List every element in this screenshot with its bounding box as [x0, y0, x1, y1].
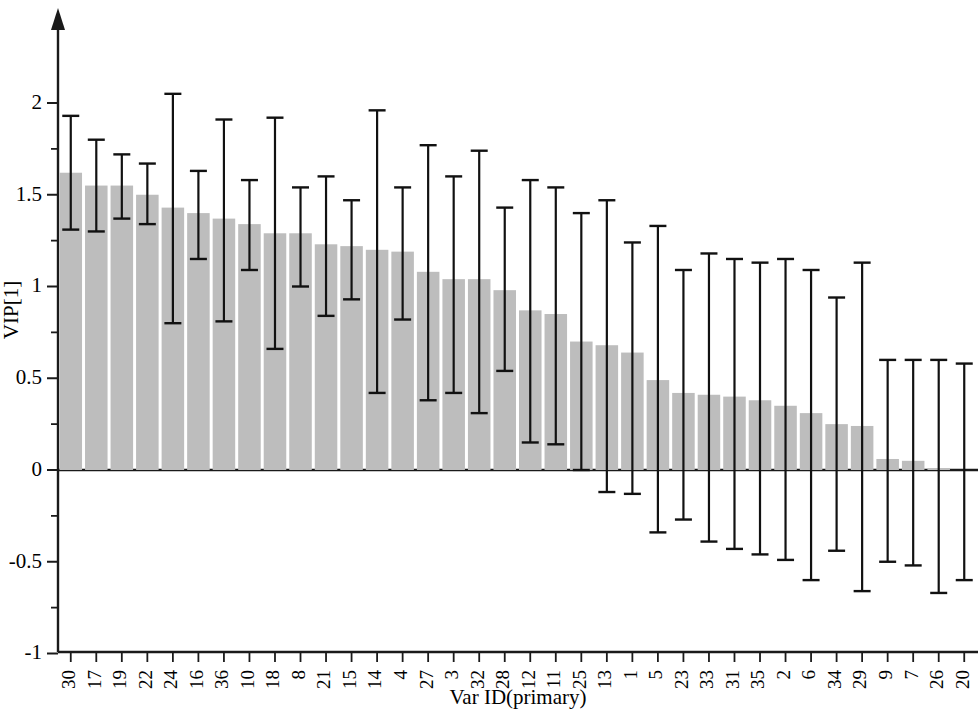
vip-plot-root: -1-0.500.511.52 301719222416361018821151… — [0, 0, 978, 715]
y-tick-label-1: 1 — [32, 273, 43, 297]
x-tick-label-31: 31 — [722, 670, 743, 689]
x-tick-label-4: 4 — [390, 670, 411, 680]
x-tick-label-34: 34 — [824, 670, 845, 690]
x-tick-label-9: 9 — [875, 670, 896, 680]
x-tick-label-6: 6 — [798, 670, 819, 680]
x-tick-label-26: 26 — [926, 670, 947, 689]
bar — [111, 186, 134, 470]
x-axis-title: Var ID(primary) — [449, 685, 586, 709]
x-tick-label-20: 20 — [952, 670, 973, 689]
vip-bar-chart: -1-0.500.511.52 301719222416361018821151… — [0, 0, 978, 715]
x-tick-label-23: 23 — [671, 670, 692, 689]
bar — [136, 195, 159, 470]
x-tick-label-35: 35 — [747, 670, 768, 689]
error-bar — [828, 298, 845, 551]
y-tick-label--0.5: -0.5 — [9, 549, 42, 573]
arrow-up-icon — [51, 8, 65, 30]
y-axis-title: VIP[1] — [0, 281, 23, 339]
x-tick-label-16: 16 — [186, 670, 207, 689]
x-tick-label-18: 18 — [262, 670, 283, 689]
y-tick-label--1: -1 — [25, 640, 43, 664]
x-tick-label-24: 24 — [160, 670, 181, 690]
x-tick-label-10: 10 — [237, 670, 258, 689]
x-tick-label-21: 21 — [313, 670, 334, 689]
x-tick-label-29: 29 — [849, 670, 870, 689]
x-tick-group — [71, 652, 964, 662]
x-tick-label-8: 8 — [288, 670, 309, 680]
x-tick-label-17: 17 — [84, 670, 105, 689]
y-tick-label-2: 2 — [32, 90, 43, 114]
x-tick-label-33: 33 — [696, 670, 717, 689]
x-tick-label-19: 19 — [109, 670, 130, 689]
x-tick-label-14: 14 — [364, 670, 385, 690]
y-tick-group: -1-0.500.511.52 — [9, 90, 58, 665]
x-tick-label-15: 15 — [339, 670, 360, 689]
x-axis — [58, 470, 978, 652]
x-tick-label-7: 7 — [901, 670, 922, 680]
error-bar — [649, 226, 666, 532]
error-bar — [930, 360, 947, 593]
x-tick-label-2: 2 — [773, 670, 794, 680]
x-tick-label-27: 27 — [416, 670, 437, 689]
x-tick-label-36: 36 — [211, 670, 232, 689]
x-tick-label-13: 13 — [594, 670, 615, 689]
y-tick-label-0: 0 — [32, 457, 43, 481]
error-bar — [956, 364, 973, 581]
x-tick-label-1: 1 — [620, 670, 641, 680]
y-tick-label-0.5: 0.5 — [16, 365, 42, 389]
x-tick-label-22: 22 — [135, 670, 156, 689]
x-tick-label-30: 30 — [58, 670, 79, 689]
x-tick-label-3: 3 — [441, 670, 462, 680]
y-tick-label-1.5: 1.5 — [16, 182, 42, 206]
x-tick-label-5: 5 — [645, 670, 666, 680]
